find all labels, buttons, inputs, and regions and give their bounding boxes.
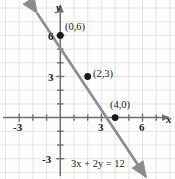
point-label-0-6: (0,6) (65, 22, 85, 33)
x-tick-label-3: 3 (98, 122, 104, 133)
point-marker (112, 114, 119, 121)
point-marker (84, 73, 91, 80)
x-axis-label: x (166, 114, 172, 125)
y-axis-label: y (56, 2, 61, 13)
graph-figure: y x -3 3 6 6 3 -3 (0,6) (2,3) (4,0) 3x +… (0, 0, 175, 179)
point-label-4-0: (4,0) (110, 100, 130, 111)
equation-label: 3x + 2y = 12 (71, 159, 125, 170)
point-label-2-3: (2,3) (93, 69, 113, 80)
coordinate-plane (0, 0, 175, 179)
x-tick-label-6: 6 (139, 122, 145, 133)
x-tick-label-neg3: -3 (13, 122, 22, 133)
y-axis (56, 5, 64, 176)
y-tick-label-neg3: -3 (42, 154, 51, 165)
y-tick-label-3: 3 (48, 72, 54, 83)
y-tick-label-6: 6 (48, 31, 54, 42)
point-marker (57, 32, 64, 39)
